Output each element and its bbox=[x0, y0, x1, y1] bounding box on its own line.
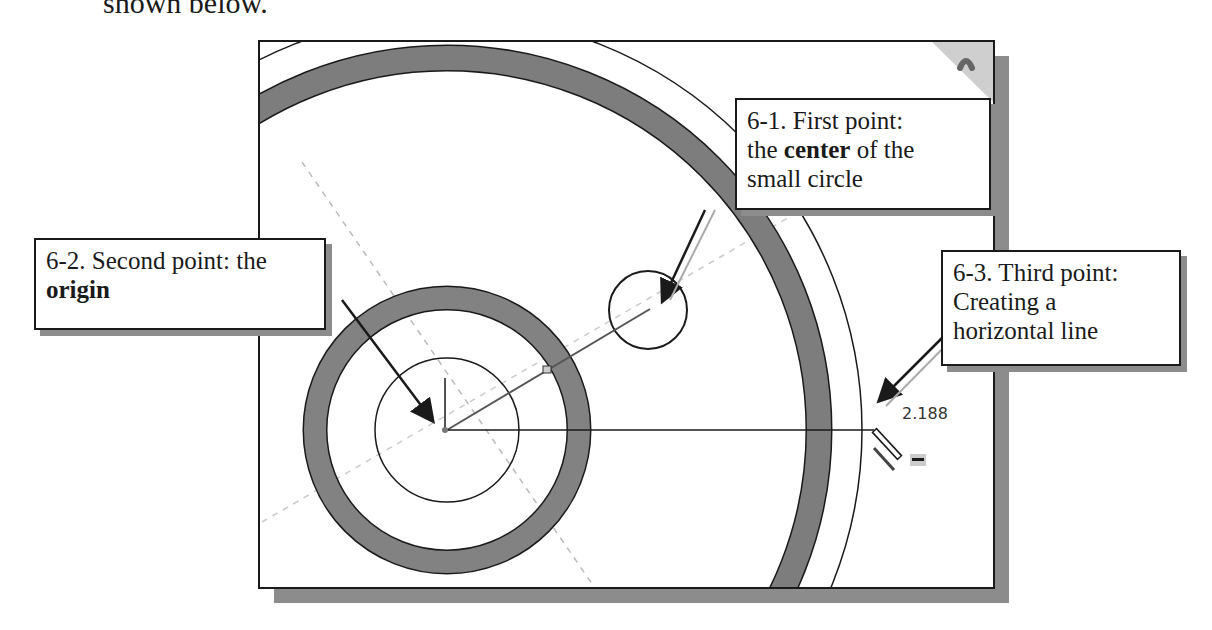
view-orientation-icon bbox=[932, 42, 993, 102]
callout-third-line3: horizontal line bbox=[953, 316, 1169, 345]
callout-second-point: 6-2. Second point: the origin bbox=[34, 238, 326, 330]
callout-first-line2: the center of the bbox=[747, 135, 979, 164]
callout-second-bold: origin bbox=[46, 276, 110, 303]
callout-first-line1: 6-1. First point: bbox=[747, 106, 979, 135]
callout-first-line3: small circle bbox=[747, 164, 979, 193]
text-center-bold: center bbox=[784, 136, 851, 163]
callout-third-line1: 6-3. Third point: bbox=[953, 258, 1169, 287]
intro-text: shown below. bbox=[103, 0, 268, 20]
dimension-readout: 2.188 bbox=[902, 404, 948, 423]
callout-third-line2: Creating a bbox=[953, 287, 1169, 316]
text-the: the bbox=[747, 136, 784, 163]
callout-first-point: 6-1. First point: the center of the smal… bbox=[735, 98, 991, 210]
callout-second-line1: 6-2. Second point: the bbox=[46, 246, 314, 275]
callout-third-point: 6-3. Third point: Creating a horizontal … bbox=[941, 250, 1181, 366]
pencil-line-cursor-icon bbox=[874, 430, 926, 470]
text-of-the: of the bbox=[850, 136, 914, 163]
